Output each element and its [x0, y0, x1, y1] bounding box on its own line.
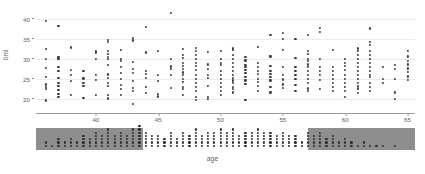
- data-point: [406, 60, 408, 62]
- data-point: [82, 85, 84, 87]
- rug-dot: [138, 125, 140, 127]
- rug-dot: [325, 141, 327, 143]
- rug-stack: [232, 128, 234, 148]
- rug-dot: [307, 145, 309, 147]
- rug-dot: [182, 135, 184, 137]
- rug-dot: [170, 141, 172, 143]
- y-axis-tick-label: 30: [23, 55, 30, 62]
- data-point: [257, 70, 259, 72]
- rug-dot: [282, 141, 284, 143]
- data-point: [307, 34, 309, 36]
- rug-dot: [120, 141, 122, 143]
- rug-dot: [338, 145, 340, 147]
- data-point: [332, 74, 334, 76]
- rug-stack: [313, 135, 315, 148]
- rug-dot: [132, 138, 134, 140]
- data-point: [207, 68, 209, 70]
- data-point: [145, 73, 147, 75]
- rug-stack: [219, 128, 221, 148]
- rug-stack: [226, 132, 228, 148]
- rug-dot: [95, 135, 97, 137]
- rug-dot: [319, 138, 321, 140]
- data-point: [82, 97, 84, 99]
- rug-stack: [350, 141, 352, 148]
- rug-dot: [138, 132, 140, 134]
- data-point: [369, 54, 371, 56]
- rug-dot: [257, 132, 259, 134]
- data-point: [269, 79, 271, 81]
- rug-dot: [157, 138, 159, 140]
- rug-stack: [238, 135, 240, 148]
- data-point: [57, 93, 59, 95]
- data-point: [232, 88, 234, 90]
- data-point: [344, 74, 346, 76]
- rug-dot: [219, 132, 221, 134]
- data-point: [344, 69, 346, 71]
- rug-dot: [107, 138, 109, 140]
- x-axis-tick-label: 45: [155, 116, 162, 123]
- data-point: [194, 58, 196, 60]
- data-point: [170, 58, 172, 60]
- rug-dot: [182, 132, 184, 134]
- data-point: [369, 62, 371, 64]
- data-point: [257, 62, 259, 64]
- rug-dot: [107, 135, 109, 137]
- rug-dot: [219, 135, 221, 137]
- data-point: [269, 34, 271, 36]
- data-point: [82, 77, 84, 79]
- data-point: [344, 82, 346, 84]
- rug-stack: [332, 135, 334, 148]
- data-point: [107, 97, 109, 99]
- rug-stack: [201, 135, 203, 148]
- rug-dot: [194, 138, 196, 140]
- rug-dot: [344, 138, 346, 140]
- rug-dot: [307, 132, 309, 134]
- data-point: [182, 94, 184, 96]
- rug-dot: [120, 132, 122, 134]
- rug-stack: [269, 132, 271, 148]
- rug-dot: [282, 135, 284, 137]
- rug-stack: [213, 132, 215, 148]
- data-point: [369, 27, 371, 29]
- rug-dot: [107, 132, 109, 134]
- data-point: [132, 103, 134, 105]
- data-point: [282, 83, 284, 85]
- data-point: [219, 58, 221, 60]
- data-point: [207, 85, 209, 87]
- rug-dot: [269, 145, 271, 147]
- data-point: [182, 62, 184, 64]
- data-point: [45, 76, 47, 78]
- data-point: [194, 54, 196, 56]
- rug-dot: [45, 141, 47, 143]
- data-point: [307, 70, 309, 72]
- data-point: [357, 58, 359, 60]
- rug-dot: [251, 141, 253, 143]
- data-point: [394, 91, 396, 93]
- rug-dot: [194, 132, 196, 134]
- data-point: [232, 86, 234, 88]
- rug-stack: [64, 141, 66, 148]
- data-point: [132, 90, 134, 92]
- data-point: [70, 94, 72, 96]
- rug-dot: [338, 141, 340, 143]
- rug-dot: [257, 128, 259, 130]
- rug-dot: [263, 135, 265, 137]
- data-point: [182, 88, 184, 90]
- data-point: [57, 96, 59, 98]
- data-point: [307, 87, 309, 89]
- data-point: [120, 84, 122, 86]
- data-point: [307, 66, 309, 68]
- data-point: [332, 70, 334, 72]
- rug-dot: [57, 141, 59, 143]
- data-point: [182, 54, 184, 56]
- rug-stack: [282, 132, 284, 148]
- data-point: [369, 58, 371, 60]
- data-point: [132, 37, 134, 39]
- rug-dot: [282, 132, 284, 134]
- x-axis-tick-label: 60: [342, 116, 349, 123]
- rug-dot: [201, 145, 203, 147]
- rug-dot: [238, 145, 240, 147]
- rug-stack: [76, 141, 78, 148]
- data-point: [194, 90, 196, 92]
- data-point: [145, 70, 147, 72]
